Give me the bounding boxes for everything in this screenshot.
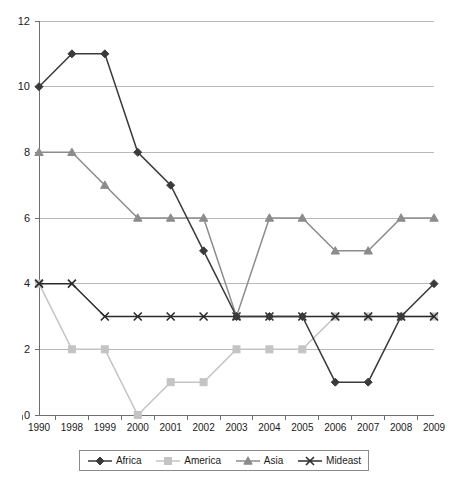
series-line: [39, 152, 434, 316]
square-marker: [299, 346, 306, 353]
diamond-marker: [364, 378, 372, 386]
legend-item-asia[interactable]: Asia: [234, 455, 284, 467]
diamond-marker: [96, 457, 104, 465]
y-axis-tick-label: 8: [4, 147, 30, 158]
x-axis-tick-label: 2009: [414, 423, 450, 433]
y-axis-tick-label: 4: [4, 278, 30, 289]
y-axis-tick-label: 2: [4, 344, 30, 355]
square-marker: [134, 412, 141, 419]
legend-item-label: Mideast: [326, 455, 361, 466]
y-axis-tick-label: 12: [4, 16, 30, 27]
square-marker: [165, 457, 172, 464]
legend-item-africa[interactable]: Africa: [86, 455, 143, 467]
legend-item-label: America: [184, 455, 221, 466]
diamond-marker: [101, 50, 109, 58]
square-marker: [167, 379, 174, 386]
series-layer: [35, 50, 438, 419]
series-asia: [35, 148, 438, 320]
triangle-icon: [235, 455, 261, 467]
chart-legend: AfricaAmericaAsiaMideast: [79, 450, 369, 471]
legend-item-america[interactable]: America: [154, 455, 222, 467]
gridlines: [39, 21, 434, 415]
x-icon: [297, 455, 323, 467]
square-marker: [233, 346, 240, 353]
square-marker: [266, 346, 273, 353]
legend-item-label: Asia: [264, 455, 283, 466]
square-marker: [68, 346, 75, 353]
y-axis-tick-label: 6: [4, 213, 30, 224]
legend-item-label: Africa: [116, 455, 142, 466]
square-marker: [101, 346, 108, 353]
diamond-marker: [331, 378, 339, 386]
diamond-marker: [200, 247, 208, 255]
y-axis-tick-label: 10: [4, 81, 30, 92]
diamond-icon: [87, 455, 113, 467]
square-icon: [155, 455, 181, 467]
square-marker: [200, 379, 207, 386]
legend-item-mideast[interactable]: Mideast: [296, 455, 362, 467]
x-axis-ticks: [23, 415, 443, 420]
y-axis-tick-label: 0: [4, 410, 30, 421]
